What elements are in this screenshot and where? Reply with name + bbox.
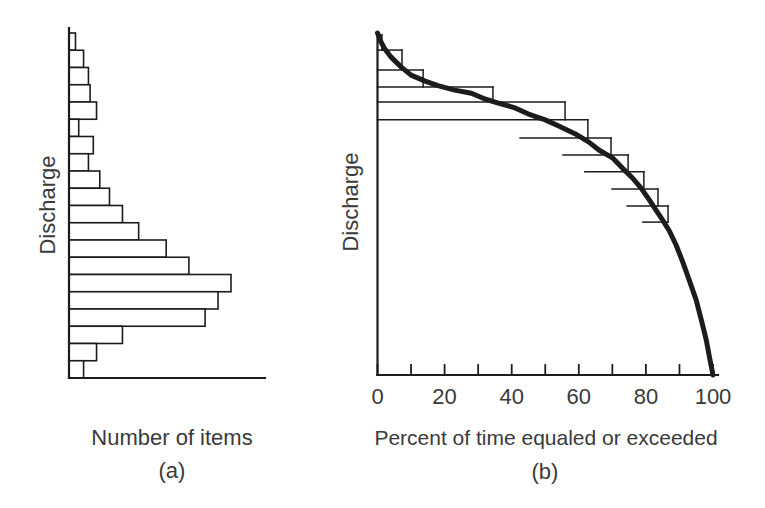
x-axis-label-duration-curve: Percent of time equaled or exceeded <box>346 426 746 450</box>
histogram-bar <box>69 206 122 223</box>
histogram-bar <box>69 188 110 205</box>
histogram-bar <box>69 85 90 102</box>
x-axis-label-histogram: Number of items <box>72 426 272 450</box>
histogram-bar <box>69 275 231 292</box>
x-tick-label: 20 <box>432 384 456 409</box>
y-axis-label-histogram: Discharge <box>36 105 60 305</box>
histogram-bar <box>69 50 84 67</box>
flow-duration-curve <box>378 33 714 375</box>
histogram-bar <box>69 137 93 154</box>
histogram-bar <box>69 309 205 326</box>
histogram-bar <box>69 171 100 188</box>
caption-b: (b) <box>345 460 745 484</box>
histogram-bar <box>69 119 79 136</box>
histogram-bar <box>69 240 166 257</box>
x-tick-label: 80 <box>634 384 658 409</box>
x-tick-label: 40 <box>499 384 523 409</box>
histogram-bar <box>69 326 122 343</box>
x-tick-label: 0 <box>371 384 383 409</box>
histogram-bar <box>69 102 97 119</box>
histogram-bar <box>69 257 189 274</box>
histogram-bar <box>69 361 84 378</box>
y-axis-label-duration-curve: Discharge <box>339 102 363 302</box>
caption-a: (a) <box>72 459 272 483</box>
x-tick-label: 60 <box>567 384 591 409</box>
histogram-bar <box>69 292 218 309</box>
figure: 020406080100 Discharge Discharge Number … <box>0 0 765 508</box>
histogram-bar <box>69 154 88 171</box>
histogram-bar <box>69 223 139 240</box>
histogram-bar <box>69 344 97 361</box>
x-tick-label: 100 <box>695 384 732 409</box>
histogram-bar <box>69 68 88 85</box>
